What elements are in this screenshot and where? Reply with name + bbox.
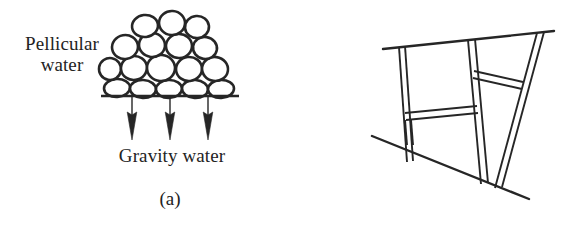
caption-a: (a) — [140, 188, 200, 210]
panel-b-fractures: Fractures (b) — [287, 0, 575, 228]
left-vertical-fracture — [399, 46, 413, 162]
panel-a-pellicular-gravity-water: Pellicular water Gravity water (a) — [0, 0, 287, 228]
panel-b-diagram — [287, 0, 575, 228]
lower-horizontal-fracture — [405, 106, 478, 120]
grain — [175, 56, 203, 83]
center-vertical-fracture — [468, 39, 488, 184]
arrow — [165, 97, 175, 140]
grain — [158, 10, 186, 36]
arrow — [203, 97, 213, 140]
fracture-network — [399, 32, 544, 188]
grain — [184, 15, 210, 39]
arrow — [127, 97, 137, 140]
pellicular-water-label: Pellicular water — [6, 33, 118, 76]
gravity-water-arrows — [127, 97, 213, 140]
figure-root: Pellicular water Gravity water (a) — [0, 0, 575, 228]
gravity-water-label: Gravity water — [82, 145, 262, 166]
upper-horizontal-fracture — [473, 71, 523, 89]
grain — [165, 33, 193, 59]
stub-fracture — [405, 120, 413, 145]
bottom-surface-line — [372, 136, 529, 199]
right-vertical-fracture — [495, 32, 544, 188]
